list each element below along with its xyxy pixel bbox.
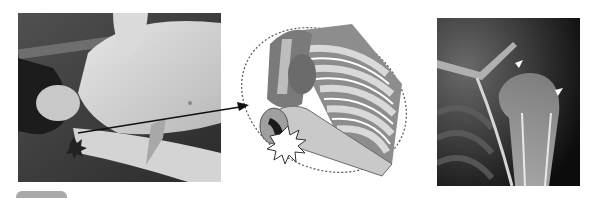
nipple	[188, 101, 192, 105]
shoulder-muscles	[267, 30, 316, 108]
anatomical-illustration	[232, 14, 417, 186]
figure-label-badge	[16, 191, 67, 198]
face	[36, 85, 80, 121]
shoulder-xray	[437, 18, 580, 186]
clinical-photo	[18, 13, 221, 182]
